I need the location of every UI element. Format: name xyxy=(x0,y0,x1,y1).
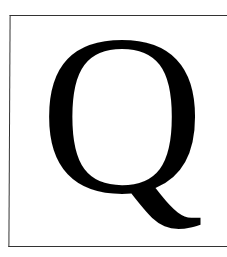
letter-glyph: Q xyxy=(0,0,227,257)
letter-q: Q xyxy=(40,0,205,241)
